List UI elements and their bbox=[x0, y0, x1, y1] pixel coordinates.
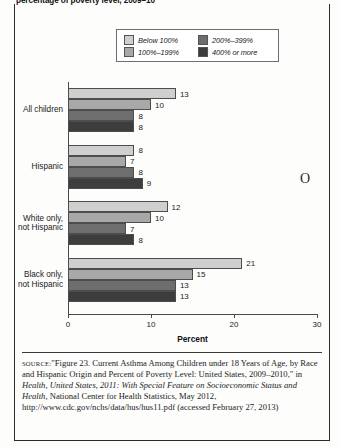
legend-label: 100%–199% bbox=[138, 48, 179, 57]
bar-row: 12 bbox=[68, 201, 317, 212]
legend-row-2: 100%–199% 400% or more bbox=[124, 46, 272, 58]
legend-label: 400% or more bbox=[212, 48, 257, 57]
bar-value-label: 12 bbox=[172, 202, 181, 213]
bar-value-label: 9 bbox=[147, 178, 151, 189]
chart-legend: Below 100% 200%–399% 100%–199% 400% or m… bbox=[116, 29, 279, 62]
bar-value-label: 13 bbox=[180, 291, 189, 302]
bar[interactable] bbox=[68, 110, 134, 121]
bar[interactable] bbox=[68, 212, 151, 223]
source-kicker: source: bbox=[22, 360, 51, 367]
bar[interactable] bbox=[68, 121, 134, 132]
legend-item-100-199: 100%–199% bbox=[124, 47, 198, 57]
bar[interactable] bbox=[68, 291, 176, 302]
bar[interactable] bbox=[68, 234, 134, 245]
bar-value-label: 10 bbox=[155, 213, 164, 224]
bar-value-label: 13 bbox=[180, 89, 189, 100]
legend-swatch-icon bbox=[198, 35, 208, 45]
bar-value-label: 13 bbox=[180, 280, 189, 291]
bar[interactable] bbox=[68, 269, 193, 280]
bar-value-label: 10 bbox=[155, 100, 164, 111]
bar-value-label: 8 bbox=[138, 111, 142, 122]
bar-row: 7 bbox=[68, 223, 317, 234]
bar[interactable] bbox=[68, 156, 126, 167]
legend-label: Below 100% bbox=[138, 36, 178, 45]
bar-row: 21 bbox=[68, 258, 317, 269]
category-label: Black only,not Hispanic bbox=[0, 270, 63, 289]
bar-value-label: 8 bbox=[138, 145, 142, 156]
bar-row: 10 bbox=[68, 99, 317, 110]
source-text-part-2: National Center for Health Statistics, M… bbox=[22, 391, 278, 412]
bar[interactable] bbox=[68, 88, 176, 99]
legend-swatch-icon bbox=[124, 47, 134, 57]
bar[interactable] bbox=[68, 178, 143, 189]
x-axis-tick-label: 0 bbox=[66, 320, 70, 329]
x-axis-tick-label: 10 bbox=[147, 320, 156, 329]
bar-row: 13 bbox=[68, 88, 317, 99]
source-note: source:"Figure 23. Current Asthma Among … bbox=[22, 358, 320, 413]
bar-value-label: 7 bbox=[130, 224, 134, 235]
bar-value-label: 7 bbox=[130, 156, 134, 167]
plot-area: 0102030131088878912107821151313 bbox=[68, 82, 317, 314]
bar[interactable] bbox=[68, 223, 126, 234]
bar-row: 8 bbox=[68, 121, 317, 132]
category-label: All children bbox=[0, 105, 63, 115]
legend-item-400-or-more: 400% or more bbox=[198, 47, 272, 57]
category-label: Hispanic bbox=[0, 162, 63, 172]
x-axis-line bbox=[68, 314, 317, 315]
scanned-page: percentage of poverty level, 2009–10 Bel… bbox=[0, 0, 339, 447]
figure-title-text: percentage of poverty level, 2009–10 bbox=[16, 0, 316, 5]
legend-swatch-icon bbox=[198, 47, 208, 57]
x-axis-title: Percent bbox=[68, 334, 317, 344]
legend-item-200-399: 200%–399% bbox=[198, 35, 272, 45]
bar-row: 10 bbox=[68, 212, 317, 223]
page-border-right bbox=[329, 4, 330, 441]
bar[interactable] bbox=[68, 201, 168, 212]
bar-row: 8 bbox=[68, 167, 317, 178]
bar-row: 8 bbox=[68, 145, 317, 156]
legend-swatch-icon bbox=[124, 35, 134, 45]
source-divider bbox=[22, 352, 322, 353]
legend-row-1: Below 100% 200%–399% bbox=[124, 34, 272, 46]
bar[interactable] bbox=[68, 258, 242, 269]
bar-value-label: 8 bbox=[138, 235, 142, 246]
x-axis-tick bbox=[151, 314, 152, 318]
bar-row: 15 bbox=[68, 269, 317, 280]
bar[interactable] bbox=[68, 280, 176, 291]
bar-row: 13 bbox=[68, 280, 317, 291]
bar-row: 8 bbox=[68, 234, 317, 245]
bar-value-label: 15 bbox=[197, 269, 206, 280]
x-axis-tick-label: 20 bbox=[230, 320, 239, 329]
bar-value-label: 21 bbox=[246, 258, 255, 269]
bar-row: 9 bbox=[68, 178, 317, 189]
page-border-bottom bbox=[14, 440, 330, 441]
bar-row: 7 bbox=[68, 156, 317, 167]
legend-label: 200%–399% bbox=[212, 36, 253, 45]
scan-artifact-glyph: O bbox=[300, 172, 310, 186]
bar-row: 13 bbox=[68, 291, 317, 302]
bar-value-label: 8 bbox=[138, 167, 142, 178]
legend-item-below-100: Below 100% bbox=[124, 35, 198, 45]
bar[interactable] bbox=[68, 99, 151, 110]
bar[interactable] bbox=[68, 167, 134, 178]
category-label: White only,not Hispanic bbox=[0, 214, 63, 233]
bar-row: 8 bbox=[68, 110, 317, 121]
source-text-part-1: "Figure 23. Current Asthma Among Childre… bbox=[22, 358, 318, 379]
bar[interactable] bbox=[68, 145, 134, 156]
x-axis-tick bbox=[234, 314, 235, 318]
x-axis-tick-label: 30 bbox=[313, 320, 322, 329]
x-axis-tick bbox=[317, 314, 318, 318]
figure-title: percentage of poverty level, 2009–10 bbox=[16, 0, 316, 5]
x-axis-tick bbox=[68, 314, 69, 318]
bar-value-label: 8 bbox=[138, 122, 142, 133]
